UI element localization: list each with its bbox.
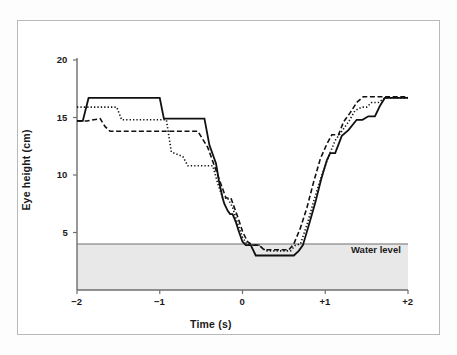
- y-tick-label-15: 15: [57, 112, 68, 123]
- y-axis-label: Eye height (cm): [20, 110, 32, 230]
- x-tick-label--1: −1: [154, 296, 165, 307]
- chart-canvas: [0, 0, 457, 355]
- y-tick-label-5: 5: [62, 227, 67, 238]
- x-tick-label-1: +1: [319, 296, 330, 307]
- x-tick-label--2: −2: [71, 296, 82, 307]
- water-level-annotation: Water level: [351, 244, 401, 255]
- series-line-trial-1: [77, 98, 408, 256]
- series-line-trial-2: [77, 98, 408, 251]
- series-layer: [77, 97, 408, 256]
- x-axis-label: Time (s): [190, 318, 232, 330]
- y-tick-label-20: 20: [57, 54, 68, 65]
- y-tick-label-10: 10: [57, 169, 68, 180]
- figure-container: Eye height (cm) Time (s) Water level 510…: [0, 0, 457, 355]
- x-tick-label-2: +2: [402, 296, 413, 307]
- x-tick-label-0: 0: [240, 296, 245, 307]
